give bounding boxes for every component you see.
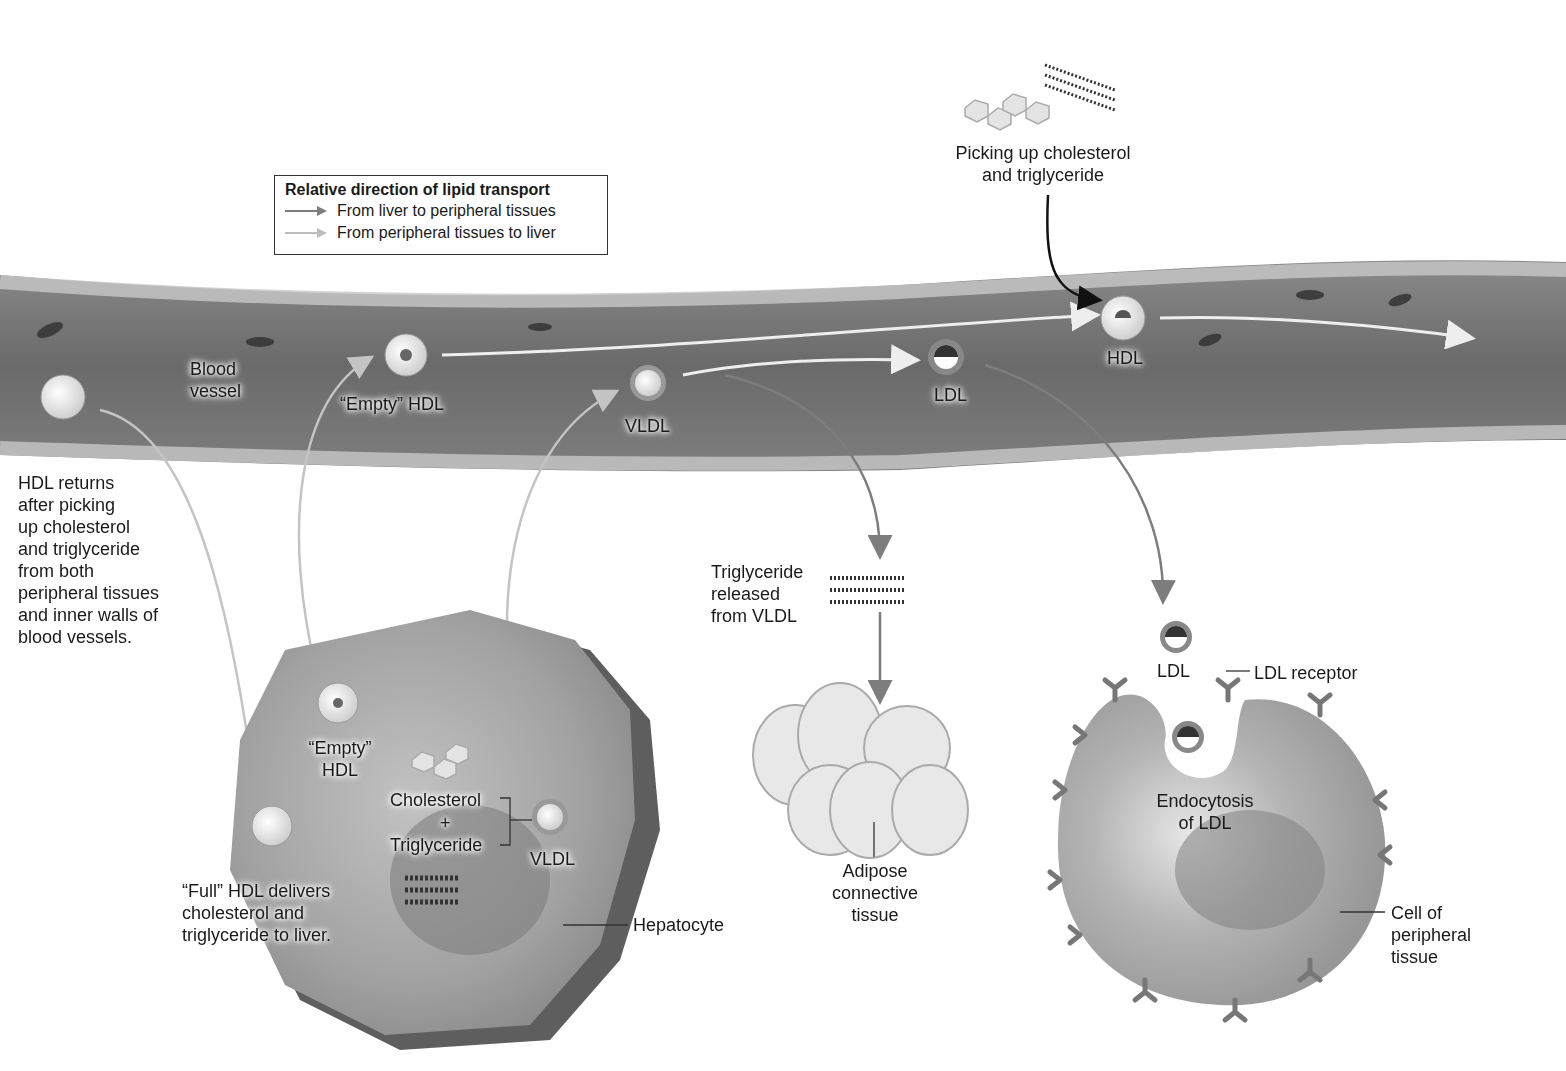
legend-item-liver-to-peripheral: From liver to peripheral tissues: [285, 200, 597, 222]
ldl-particle-free: [1160, 621, 1192, 653]
label-blood-vessel: Blood vessel: [190, 358, 241, 402]
legend-item-peripheral-to-liver: From peripheral tissues to liver: [285, 222, 597, 244]
label-picking-up: Picking up cholesterol and triglyceride: [938, 142, 1148, 186]
legend: Relative direction of lipid transport Fr…: [274, 175, 608, 255]
label-triglyceride-released: Triglyceride released from VLDL: [711, 561, 803, 627]
empty-hdl-particle-liver: [318, 683, 358, 723]
triglyceride-molecule-icon: [1045, 65, 1115, 110]
label-ldl-receptor: LDL receptor: [1254, 662, 1357, 684]
label-empty-hdl-vessel: “Empty” HDL: [340, 393, 444, 415]
label-adipose: Adipose connective tissue: [815, 860, 935, 926]
vldl-particle-vessel: [630, 365, 666, 401]
label-full-hdl: “Full” HDL delivers cholesterol and trig…: [182, 880, 331, 946]
peripheral-cell: [1050, 680, 1390, 1020]
label-hdl-returns: HDL returns after picking up cholesterol…: [18, 472, 159, 648]
label-peripheral-cell: Cell of peripheral tissue: [1391, 902, 1471, 968]
cholesterol-molecule-icon: [965, 94, 1049, 130]
full-hdl-particle: [41, 375, 85, 419]
label-plus: +: [440, 812, 451, 834]
hdl-particle-vessel: [1101, 296, 1145, 340]
empty-hdl-particle-vessel: [385, 334, 427, 376]
label-endocytosis: Endocytosis of LDL: [1130, 790, 1280, 834]
ldl-particle-vessel: [928, 339, 964, 375]
label-vldl-liver: VLDL: [530, 848, 575, 870]
legend-title: Relative direction of lipid transport: [285, 180, 597, 200]
label-cholesterol: Cholesterol: [390, 789, 481, 811]
adipose-tissue: [753, 683, 968, 858]
ldl-particle-endocytosed: [1172, 721, 1204, 753]
label-ldl-vessel: LDL: [934, 384, 967, 406]
label-ldl-free: LDL: [1157, 660, 1190, 682]
full-hdl-particle-liver: [252, 806, 292, 846]
label-hdl-vessel: HDL: [1107, 347, 1143, 369]
light-arrow-icon: [285, 228, 327, 238]
label-empty-hdl-liver: “Empty” HDL: [290, 737, 390, 781]
label-hepatocyte: Hepatocyte: [633, 914, 724, 936]
triglyceride-molecule-icon-released: [830, 578, 905, 602]
label-triglyceride: Triglyceride: [390, 834, 482, 856]
dark-arrow-icon: [285, 206, 327, 216]
label-vldl-vessel: VLDL: [625, 415, 670, 437]
vldl-particle-liver: [532, 799, 568, 835]
